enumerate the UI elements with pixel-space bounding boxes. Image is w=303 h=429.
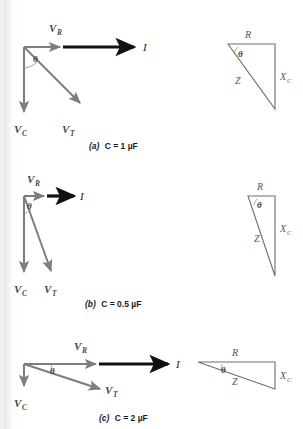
label-theta-b: θ — [27, 201, 32, 211]
panel-a-impedance-triangle: R θ Z X C — [228, 29, 292, 109]
caption-a-text: C = 1 µF — [105, 141, 138, 151]
label-vc-sub-a: C — [22, 129, 28, 138]
caption-c-text: C = 2 µF — [115, 413, 148, 423]
caption-c-prefix: (c) — [99, 413, 110, 423]
label-xc-sub-b: C — [287, 229, 292, 237]
panel-b-phasor-diagram: V R I V C V T θ — [14, 173, 85, 298]
label-vt-sub-b: T — [52, 289, 57, 298]
panel-a: V R I V C V T θ R θ Z X C (a) C = 1 — [14, 22, 292, 151]
label-vc-sub-c: C — [22, 403, 28, 412]
label-theta-triangle-b: θ — [257, 200, 262, 210]
caption-a: (a) C = 1 µF — [89, 141, 138, 151]
label-vr-sub-c: R — [81, 346, 87, 355]
label-xc-b: X — [279, 223, 287, 234]
label-z-c: Z — [232, 376, 238, 387]
panel-b-impedance-triangle: R θ Z X C — [248, 181, 292, 276]
label-r-a: R — [244, 29, 251, 40]
panel-b: V R I V C V T θ R θ Z X C (b) C = 0 — [14, 173, 292, 309]
caption-b-prefix: (b) — [85, 299, 96, 309]
label-vc-sub-b: C — [22, 289, 28, 298]
phasor-vt-arrow-c — [24, 364, 100, 389]
panel-c-impedance-triangle: R θ Z X C — [198, 347, 292, 389]
label-xc-a: X — [279, 71, 287, 82]
label-theta-triangle-a: θ — [238, 49, 243, 59]
label-xc-sub-a: C — [287, 77, 292, 85]
caption-b: (b) C = 0.5 µF — [85, 299, 141, 309]
caption-c: (c) C = 2 µF — [99, 413, 148, 423]
label-z-b: Z — [254, 233, 260, 244]
label-current-b: I — [79, 190, 85, 202]
label-xc-sub-c: C — [287, 376, 292, 384]
panel-a-phasor-diagram: V R I V C V T θ — [14, 22, 148, 138]
phasor-figure-svg: V R I V C V T θ R θ Z X C (a) C = 1 — [0, 0, 303, 429]
label-vr-sub-b: R — [34, 179, 40, 188]
label-vr-sub-a: R — [56, 28, 62, 37]
label-theta-c: θ — [50, 366, 55, 376]
label-xc-c: X — [279, 370, 287, 381]
figure-page: V R I V C V T θ R θ Z X C (a) C = 1 — [0, 0, 303, 429]
label-theta-triangle-c: θ — [221, 365, 226, 375]
caption-b-text: C = 0.5 µF — [101, 299, 141, 309]
label-theta-a: θ — [33, 54, 38, 64]
label-z-a: Z — [235, 75, 241, 86]
label-vt-sub-c: T — [113, 390, 118, 399]
caption-a-prefix: (a) — [89, 141, 100, 151]
label-current-a: I — [142, 41, 148, 53]
panel-c: V R I V C V T θ R θ Z X C (c) C = 2 — [14, 340, 292, 423]
label-current-c: I — [175, 358, 181, 370]
label-r-c: R — [231, 347, 238, 358]
label-vt-sub-a: T — [70, 129, 75, 138]
panel-c-phasor-diagram: V R I V C V T θ — [14, 340, 181, 412]
label-r-b: R — [256, 181, 263, 192]
